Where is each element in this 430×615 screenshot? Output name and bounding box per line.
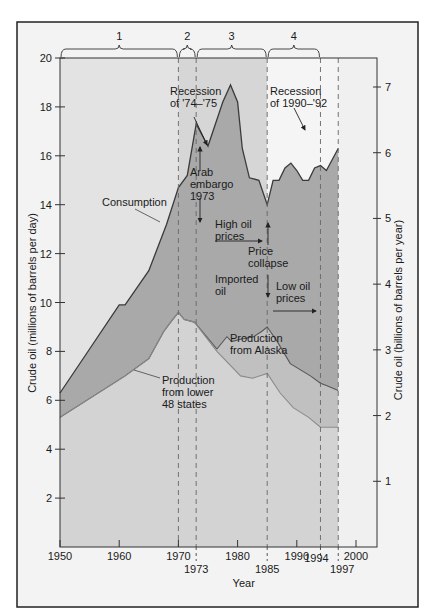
x-secondary-label: 1994 (304, 552, 328, 564)
y-right-tick-label: 7 (385, 81, 391, 93)
annotation-line: High oil (215, 218, 252, 230)
period-label-4: 4 (291, 30, 297, 42)
annotation-line: embargo (190, 178, 233, 190)
annotation-line: prices (276, 292, 306, 304)
annotation-recession-90-92: Recessionof 1990–'92 (270, 85, 327, 109)
period-label-1: 1 (116, 30, 122, 42)
tail-bg (338, 58, 377, 547)
y-tick-label: 18 (40, 101, 52, 113)
y-right-tick-label: 6 (385, 147, 391, 159)
x-tick-label: 1980 (225, 550, 249, 562)
annotation-line: from Alaska (230, 344, 288, 356)
y-tick-label: 2 (46, 492, 52, 504)
annotation-low-oil-prices: Low oilprices (276, 280, 310, 304)
oil-consumption-production-chart: 2468101214161820123456719501960197019801… (0, 0, 430, 615)
x-axis-title: Year (233, 577, 256, 589)
period-label-2: 2 (184, 30, 190, 42)
y-right-tick-label: 5 (385, 212, 391, 224)
x-tick-label: 1970 (166, 550, 190, 562)
annotation-line: Production (230, 332, 283, 344)
annotation-production-alaska: Productionfrom Alaska (230, 332, 288, 356)
annotation-consumption: Consumption (102, 196, 167, 208)
annotation-line: collapse (248, 257, 288, 269)
x-secondary-label: 1973 (184, 563, 208, 575)
annotation-line: of '74–'75 (170, 97, 217, 109)
y-tick-label: 12 (40, 248, 52, 260)
oil-chart-figure: 2468101214161820123456719501960197019801… (0, 0, 430, 615)
x-secondary-label: 1985 (255, 563, 279, 575)
annotation-line: oil (215, 285, 226, 297)
y-right-tick-label: 3 (385, 344, 391, 356)
annotation-line: from lower (162, 386, 214, 398)
y-right-tick-label: 2 (385, 410, 391, 422)
annotation-line: Price (248, 245, 273, 257)
y-tick-label: 10 (40, 297, 52, 309)
annotation-line: Recession (170, 85, 221, 97)
annotation-line: 48 states (162, 398, 207, 410)
annotation-line: 1973 (190, 190, 214, 202)
y-right-tick-label: 4 (385, 278, 391, 290)
y-tick-label: 14 (40, 199, 52, 211)
annotation-line: Recession (270, 85, 321, 97)
annotation-line: prices (215, 230, 245, 242)
x-tick-label: 1950 (48, 550, 72, 562)
y-right-tick-label: 1 (385, 475, 391, 487)
y-axis-title: Crude oil (millions of barrels per day) (26, 213, 38, 393)
annotation-line: Low oil (276, 280, 310, 292)
y-right-axis-title: Crude oil (billions of barrels per year) (392, 220, 404, 400)
annotation-line: Imported (215, 273, 258, 285)
x-secondary-label: 1997 (330, 563, 354, 575)
annotation-line: of 1990–'92 (270, 97, 327, 109)
annotation-recession-74-75: Recessionof '74–'75 (170, 85, 221, 109)
annotation-line: Production (162, 374, 215, 386)
y-tick-label: 16 (40, 150, 52, 162)
y-tick-label: 20 (40, 52, 52, 64)
y-tick-label: 4 (46, 443, 52, 455)
y-tick-label: 8 (46, 345, 52, 357)
y-tick-label: 6 (46, 394, 52, 406)
annotation-line: Arab (190, 166, 213, 178)
x-tick-label: 2000 (344, 550, 368, 562)
period-label-3: 3 (229, 30, 235, 42)
annotation-line: Consumption (102, 196, 167, 208)
x-tick-label: 1960 (107, 550, 131, 562)
